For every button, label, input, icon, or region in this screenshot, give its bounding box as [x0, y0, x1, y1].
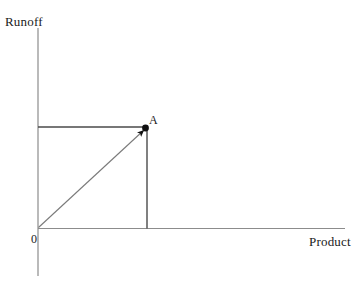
y-axis-title: Runoff — [5, 15, 43, 28]
runoff-product-diagram: Runoff Product 0 A — [0, 0, 360, 286]
point-a-marker — [142, 125, 149, 132]
plot-canvas — [0, 0, 360, 286]
point-a-label: A — [149, 114, 158, 126]
x-axis-title: Product — [309, 235, 351, 248]
origin-to-a-vector — [39, 131, 144, 228]
origin-label: 0 — [31, 233, 37, 245]
